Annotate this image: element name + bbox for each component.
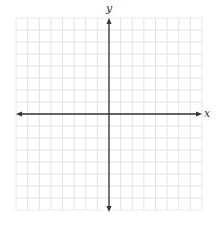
axes <box>16 18 202 212</box>
x-axis-left-arrow-icon <box>16 112 22 117</box>
y-axis-up-arrow-icon <box>107 18 112 24</box>
y-axis-label: y <box>106 3 112 14</box>
coordinate-plane: y x <box>0 0 216 227</box>
grid-svg <box>0 0 216 227</box>
y-axis-down-arrow-icon <box>107 206 112 212</box>
x-axis-right-arrow-icon <box>196 112 202 117</box>
x-axis-label: x <box>204 108 210 119</box>
